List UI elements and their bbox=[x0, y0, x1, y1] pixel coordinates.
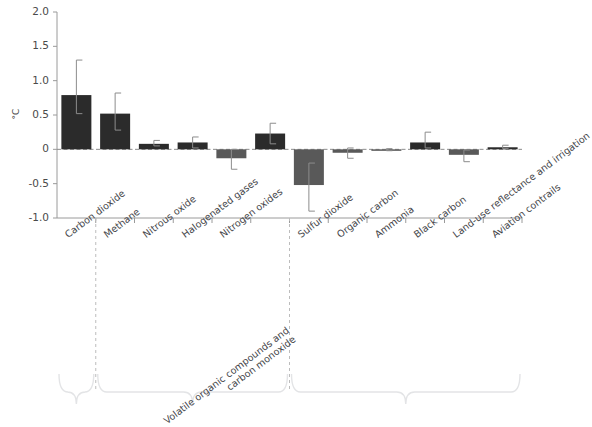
y-axis-title: °C bbox=[11, 94, 21, 134]
y-tick-label: 2.0 bbox=[15, 5, 49, 17]
group-brace-0 bbox=[59, 374, 94, 404]
y-tick-label: -0.5 bbox=[15, 177, 49, 189]
y-tick-label: -1.0 bbox=[15, 211, 49, 223]
group-brace-2 bbox=[292, 374, 521, 404]
y-tick-label: 0 bbox=[15, 142, 49, 154]
y-tick-label: 1.5 bbox=[15, 39, 49, 51]
y-tick-label: 1.0 bbox=[15, 74, 49, 86]
